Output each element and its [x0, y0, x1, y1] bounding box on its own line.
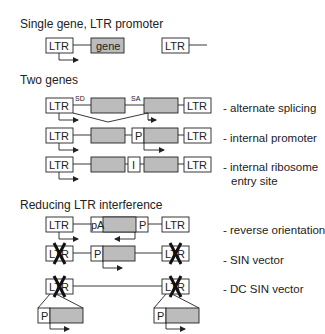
svg-text:LTR: LTR: [49, 130, 69, 142]
svg-text:LTR: LTR: [165, 219, 185, 231]
row-dc-sin-vector: LTR LTR P P: [38, 276, 199, 329]
svg-text:LTR: LTR: [187, 130, 207, 142]
row-internal-promoter: LTR P LTR: [46, 128, 211, 150]
svg-text:SD: SD: [75, 95, 85, 102]
row-alternate-splicing: LTR SD SA LTR: [46, 95, 211, 122]
svg-text:SA: SA: [131, 95, 141, 102]
svg-text:P: P: [157, 310, 164, 322]
row-single-gene: LTR gene LTR: [46, 38, 207, 60]
row-ires: LTR I LTR: [46, 157, 211, 179]
svg-text:LTR: LTR: [187, 100, 207, 112]
svg-text:P: P: [135, 130, 142, 142]
svg-text:LTR: LTR: [49, 100, 69, 112]
svg-text:LTR: LTR: [187, 159, 207, 171]
svg-text:P: P: [41, 310, 48, 322]
row-reverse-orientation: LTR pA P LTR: [46, 217, 189, 239]
ltr-label: LTR: [49, 40, 69, 52]
svg-text:pA: pA: [91, 219, 105, 231]
svg-text:LTR: LTR: [49, 159, 69, 171]
svg-text:P: P: [139, 219, 146, 231]
row-sin-vector: LTR P LTR: [46, 243, 189, 268]
svg-text:LTR: LTR: [165, 40, 185, 52]
svg-text:I: I: [132, 159, 135, 171]
svg-text:P: P: [94, 248, 101, 260]
svg-text:gene: gene: [96, 40, 120, 52]
svg-text:LTR: LTR: [49, 219, 69, 231]
